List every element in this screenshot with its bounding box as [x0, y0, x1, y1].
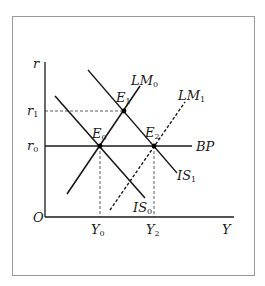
is-lm-bp-diagram: r Y O r1 r0 Y0 Y2 LM0 LM1 IS0 IS1 BP E0 … [0, 0, 265, 286]
lm0-label: LM0 [130, 73, 158, 89]
r0-label: r0 [27, 138, 38, 154]
e0-point [98, 144, 103, 149]
e1-label: E1 [115, 90, 131, 106]
x-axis-label: Y [222, 222, 232, 237]
is0-label: IS0 [132, 200, 152, 216]
e2-label: E2 [144, 125, 160, 141]
e0-label: E0 [91, 126, 107, 142]
bp-label: BP [195, 139, 215, 154]
e1-point [122, 109, 127, 114]
origin-label: O [33, 210, 44, 225]
is1-label: IS1 [176, 168, 196, 184]
lm1-label: LM1 [177, 88, 205, 104]
r1-label: r1 [27, 103, 38, 119]
e2-point [152, 144, 157, 149]
y2-label: Y2 [146, 222, 160, 238]
y-axis-label: r [33, 56, 40, 71]
y0-label: Y0 [91, 222, 105, 238]
lm1-curve [110, 102, 185, 210]
